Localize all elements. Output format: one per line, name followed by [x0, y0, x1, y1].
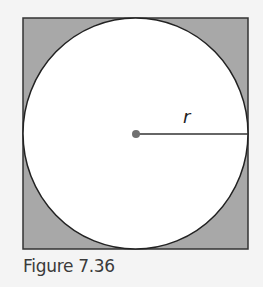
- diagram-svg: r: [0, 0, 263, 287]
- center-point: [132, 130, 140, 138]
- figure-caption: Figure 7.36: [23, 256, 115, 276]
- inscribed-circle-figure: r Figure 7.36: [0, 0, 263, 287]
